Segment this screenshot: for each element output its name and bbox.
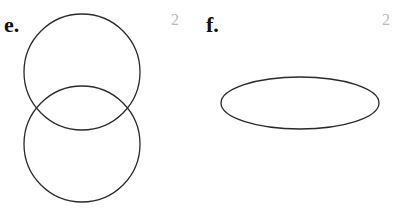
top-circle <box>24 14 140 130</box>
shapes-canvas <box>0 0 393 209</box>
horizontal-ellipse <box>221 77 379 129</box>
bottom-circle <box>24 86 140 202</box>
